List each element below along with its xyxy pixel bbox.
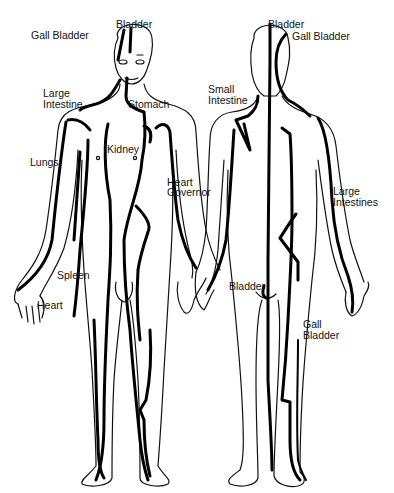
label-back-gall-bladder-lower-line2: Bladder xyxy=(303,330,339,340)
label-back-large-intestines-line2: Intestines xyxy=(333,197,378,207)
label-front-lungs: Lungs xyxy=(30,157,59,167)
label-back-gall-bladder-lower-line1: Gall xyxy=(303,319,322,329)
label-front-heart: Heart xyxy=(37,300,63,310)
label-back-bladder: Bladder xyxy=(268,19,304,29)
label-back-small-intestine-line1: Small xyxy=(208,84,234,94)
label-front-stomach: Stomach xyxy=(128,99,169,109)
label-back-gall-bladder: Gall Bladder xyxy=(292,31,350,41)
label-front-kidney: Kidney xyxy=(107,144,139,154)
label-back-bladder-lower: Bladder xyxy=(229,281,265,291)
label-front-spleen: Spleen xyxy=(57,270,90,280)
label-front-heart-governor-line2: Governor xyxy=(167,187,211,197)
meridian-diagram xyxy=(0,0,394,493)
label-front-gall-bladder: Gall Bladder xyxy=(31,30,89,40)
label-front-bladder: Bladder xyxy=(116,19,152,29)
label-front-large-intestine-line2: Intestine xyxy=(43,99,83,109)
label-back-small-intestine-line2: Intestine xyxy=(208,95,248,105)
label-front-large-intestine-line1: Large xyxy=(43,88,70,98)
label-back-large-intestines-line1: Large xyxy=(333,186,360,196)
